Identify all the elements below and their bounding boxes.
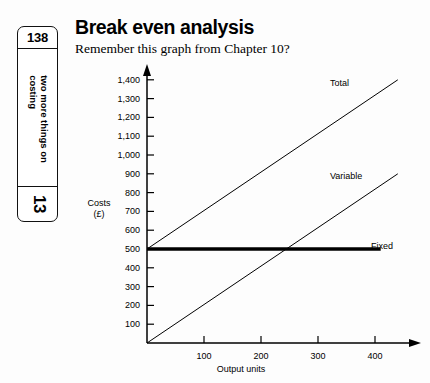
x-axis-tick-label: 200 xyxy=(253,351,268,361)
y-axis-tick-label: 1,000 xyxy=(96,150,140,160)
x-axis-arrowhead xyxy=(409,339,421,347)
y-axis-title-line1: Costs xyxy=(87,198,110,208)
break-even-chart: 1002003004005006007008009001,0001,1001,2… xyxy=(0,0,430,383)
series-label-fixed: Fixed xyxy=(371,241,393,251)
y-axis-tick-label: 100 xyxy=(96,319,140,329)
y-axis-tick-label: 900 xyxy=(96,169,140,179)
y-axis-tick-label: 1,200 xyxy=(96,112,140,122)
y-axis-tick-label: 200 xyxy=(96,300,140,310)
y-axis-ticks xyxy=(147,80,154,324)
x-axis-tick-label: 100 xyxy=(196,351,211,361)
y-axis-title: Costs (£) xyxy=(78,198,120,220)
y-axis-tick-label: 600 xyxy=(96,225,140,235)
x-axis-title: Output units xyxy=(217,364,266,374)
page-background: 138 two more things on costing 13 Break … xyxy=(0,0,430,383)
y-axis-tick-label: 1,300 xyxy=(96,94,140,104)
y-axis-tick-label: 400 xyxy=(96,263,140,273)
y-axis-tick-label: 800 xyxy=(96,188,140,198)
y-axis-tick-label: 300 xyxy=(96,282,140,292)
series-line-total xyxy=(147,80,398,249)
y-axis-arrowhead xyxy=(143,64,151,76)
x-axis-tick-label: 400 xyxy=(367,351,382,361)
series-line-variable xyxy=(147,174,398,343)
series-label-variable: Variable xyxy=(330,171,362,181)
y-axis-tick-label: 1,100 xyxy=(96,131,140,141)
y-axis-title-line2: (£) xyxy=(94,209,105,219)
y-axis-tick-label: 500 xyxy=(96,244,140,254)
x-axis-ticks xyxy=(204,336,375,343)
x-axis-tick-label: 300 xyxy=(310,351,325,361)
series-label-total: Total xyxy=(330,78,349,88)
y-axis-tick-label: 1,400 xyxy=(96,75,140,85)
chart-svg xyxy=(0,0,430,383)
chart-series-lines xyxy=(147,80,398,343)
